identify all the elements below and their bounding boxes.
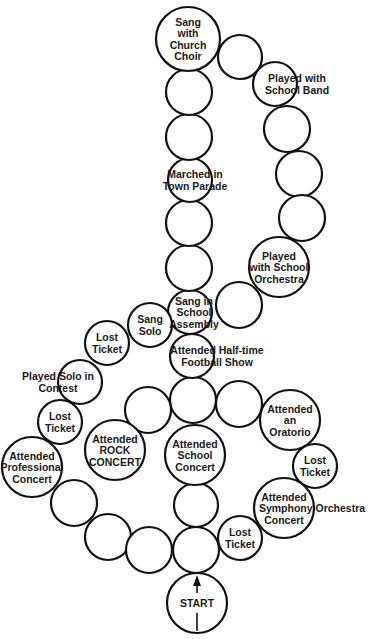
board-space-s6 [166, 114, 212, 160]
space-label-oratorio: Attended [267, 403, 313, 415]
space-label-lost-ticket-2: Ticket [45, 422, 76, 434]
board-space-s12 [216, 282, 262, 328]
space-label-solo-contest: Contest [38, 382, 78, 394]
space-label-parade: Marched in [167, 168, 222, 180]
space-label-rock-concert: ROCK [100, 444, 131, 456]
board-space-s10 [276, 151, 322, 197]
board-space-s15 [126, 527, 172, 573]
space-label-solo-contest: Played Solo in [22, 370, 94, 382]
space-label-school-orchestra: with School [249, 261, 309, 273]
space-label-lost-ticket-4: Lost [229, 526, 252, 538]
space-label-professional-concert: Concert [12, 473, 52, 485]
space-label-symphony: Concert [264, 514, 304, 526]
space-label-professional-concert: Attended [9, 450, 55, 462]
space-label-lost-ticket-3: Ticket [300, 466, 331, 478]
space-label-parade: Town Parade [163, 180, 228, 192]
space-label-church-choir: Choir [174, 50, 201, 62]
space-label-school-orchestra: Played [262, 250, 296, 262]
space-label-professional-concert: Professional [0, 461, 63, 473]
space-label-start: START [180, 597, 215, 609]
space-label-sang-solo: Sang [137, 313, 163, 325]
space-label-school-concert: Attended [172, 438, 218, 450]
board-space-s4 [166, 245, 212, 291]
board-space-s17 [216, 381, 262, 427]
space-label-assembly: Assembly [169, 318, 219, 330]
space-label-assembly: Sang in [175, 295, 213, 307]
space-label-school-concert: Concert [175, 461, 215, 473]
board-space-s7 [166, 69, 212, 115]
space-label-oratorio: Oratorio [269, 426, 310, 438]
space-label-symphony: Symphony Orchestra [259, 502, 365, 514]
space-label-school-concert: School [177, 449, 212, 461]
space-label-oratorio: an [284, 414, 296, 426]
board-space-s5 [166, 200, 212, 246]
space-label-school-orchestra: Orchestra [254, 273, 304, 285]
space-label-rock-concert: Attended [92, 433, 138, 445]
space-label-sang-solo: Solo [139, 325, 162, 337]
space-label-church-choir: Church [170, 39, 207, 51]
space-label-lost-ticket-4: Ticket [225, 538, 256, 550]
board-space-s9 [264, 106, 310, 152]
board-space-s13 [51, 480, 97, 526]
board-space-s3 [170, 377, 216, 423]
space-label-symphony: Attended [261, 491, 307, 503]
space-label-halftime: Attended Half-time [170, 344, 263, 356]
space-label-assembly: School [176, 306, 211, 318]
board-space-s1 [173, 527, 219, 573]
space-label-lost-ticket-3: Lost [304, 454, 327, 466]
space-label-rock-concert: CONCERT [89, 456, 142, 468]
space-label-school-band: School Band [265, 84, 329, 96]
space-label-lost-ticket-1: Ticket [92, 343, 123, 355]
board-space-s14 [85, 514, 131, 560]
board-space-s2 [174, 483, 218, 527]
space-label-church-choir: Sang [175, 16, 201, 28]
space-label-lost-ticket-2: Lost [49, 410, 72, 422]
space-label-church-choir: with [177, 27, 199, 39]
board-space-s11 [279, 195, 325, 241]
space-label-school-band: Played with [268, 72, 326, 84]
space-label-lost-ticket-1: Lost [96, 331, 119, 343]
space-label-halftime: Football Show [181, 356, 254, 368]
board-game-diagram: STARTAttendedSchoolConcertAttended Half-… [0, 0, 371, 639]
